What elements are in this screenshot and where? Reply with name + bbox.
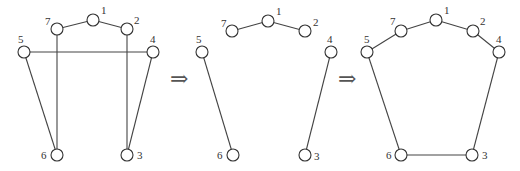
node-4 — [147, 46, 159, 58]
node-3 — [299, 149, 311, 161]
implies-arrow-1: ⇒ — [170, 66, 188, 91]
node-2 — [121, 23, 133, 35]
node-7 — [226, 25, 238, 37]
edge-4-3 — [305, 52, 331, 155]
node-1 — [430, 14, 442, 26]
node-label-4: 4 — [496, 33, 502, 45]
node-1 — [87, 14, 99, 26]
edge-4-3 — [127, 52, 153, 155]
node-1 — [262, 15, 274, 27]
node-label-5: 5 — [364, 33, 370, 45]
implies-arrow-2: ⇒ — [338, 66, 356, 91]
node-6 — [227, 149, 239, 161]
edge-5-6 — [202, 52, 233, 155]
node-label-2: 2 — [313, 16, 319, 28]
panel-right-graph: 1725463 — [361, 4, 505, 161]
panel-middle-graph: 1725463 — [196, 5, 337, 162]
node-3 — [121, 149, 133, 161]
node-label-3: 3 — [137, 149, 143, 161]
node-label-3: 3 — [482, 149, 488, 161]
node-7 — [395, 25, 407, 37]
node-label-4: 4 — [150, 33, 156, 45]
node-4 — [325, 46, 337, 58]
node-label-4: 4 — [327, 33, 333, 45]
node-5 — [18, 46, 30, 58]
node-label-1: 1 — [101, 4, 107, 16]
node-label-1: 1 — [444, 4, 450, 16]
edge-5-6 — [367, 52, 401, 155]
node-label-7: 7 — [221, 17, 227, 29]
node-2 — [467, 25, 479, 37]
node-label-6: 6 — [217, 149, 223, 161]
node-label-5: 5 — [196, 33, 202, 45]
node-label-2: 2 — [134, 14, 140, 26]
node-label-7: 7 — [390, 15, 396, 27]
node-2 — [299, 25, 311, 37]
edge-4-3 — [472, 52, 499, 155]
node-label-6: 6 — [386, 149, 392, 161]
node-label-7: 7 — [45, 15, 51, 27]
node-4 — [493, 46, 505, 58]
node-6 — [395, 149, 407, 161]
graph-diagram: 1725463 ⇒ 1725463 ⇒ 1725463 — [0, 0, 520, 171]
node-label-3: 3 — [314, 150, 320, 162]
panel-left-graph: 1725463 — [18, 4, 159, 161]
node-6 — [51, 149, 63, 161]
node-7 — [51, 23, 63, 35]
node-label-2: 2 — [480, 15, 486, 27]
node-5 — [196, 46, 208, 58]
node-label-5: 5 — [18, 33, 24, 45]
node-label-1: 1 — [276, 5, 282, 17]
edge-5-6 — [24, 52, 57, 155]
node-3 — [466, 149, 478, 161]
node-label-6: 6 — [41, 149, 47, 161]
node-5 — [361, 46, 373, 58]
